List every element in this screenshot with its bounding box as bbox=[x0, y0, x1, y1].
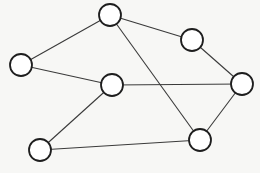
graph-diagram bbox=[0, 0, 260, 173]
node-C bbox=[101, 74, 123, 96]
edge-B-C bbox=[21, 65, 112, 85]
edge-C-E bbox=[112, 84, 242, 85]
nodes-group bbox=[10, 4, 253, 161]
edge-C-G bbox=[40, 85, 112, 150]
edge-G-F bbox=[40, 140, 200, 150]
node-A bbox=[99, 4, 121, 26]
node-E bbox=[231, 73, 253, 95]
edge-A-B bbox=[21, 15, 110, 65]
node-F bbox=[189, 129, 211, 151]
node-D bbox=[181, 29, 203, 51]
edge-A-D bbox=[110, 15, 192, 40]
node-B bbox=[10, 54, 32, 76]
edges-group bbox=[21, 15, 242, 150]
node-G bbox=[29, 139, 51, 161]
